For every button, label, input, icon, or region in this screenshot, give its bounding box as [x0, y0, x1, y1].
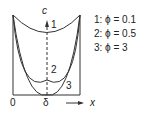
- curve-2-label: 2: [51, 64, 57, 75]
- origin-label: 0: [10, 97, 16, 108]
- x-arrow-icon: [78, 101, 84, 105]
- curve-3-label: 3: [66, 80, 72, 91]
- x-axis-label: x: [90, 97, 95, 108]
- legend: 1: ϕ = 0.1 2: ϕ = 0.5 3: ϕ = 3: [94, 13, 136, 55]
- c-axis-label: c: [42, 5, 47, 16]
- curve-1-label: 1: [51, 19, 57, 30]
- legend-item-1: 1: ϕ = 0.1: [94, 13, 136, 27]
- legend-item-3: 3: ϕ = 3: [94, 41, 136, 55]
- c-axis-arrow-icon: [45, 20, 49, 27]
- delta-label: δ: [43, 97, 49, 108]
- legend-item-2: 2: ϕ = 0.5: [94, 27, 136, 41]
